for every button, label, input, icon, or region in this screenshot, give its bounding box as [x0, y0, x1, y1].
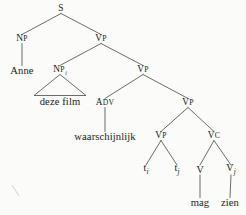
- branch-vp3-vp4: [161, 108, 188, 132]
- branch-vj-zien: [230, 175, 231, 198]
- tree-edges-svg: [0, 0, 246, 215]
- node-np1: NP: [16, 34, 28, 43]
- node-vp4: VP: [155, 131, 167, 140]
- branch-vc-vj: [214, 141, 231, 166]
- syntax-tree-figure: SNPVPAnneNPiVPdeze filmADVVPwaarschijnli…: [0, 0, 246, 215]
- node-vj: Vj: [226, 163, 236, 176]
- branch-vp3-vc: [188, 108, 214, 132]
- node-vc: VC: [208, 131, 221, 140]
- node-mag: mag: [191, 198, 210, 209]
- subscript-j: j: [233, 168, 235, 176]
- node-dezefilm: deze film: [40, 97, 81, 108]
- constituent-triangles: [34, 75, 86, 96]
- node-vp3: VP: [182, 98, 194, 107]
- branch-vp2-adv: [105, 75, 143, 99]
- branch-vp4-ti: [146, 141, 161, 166]
- node-zien: zien: [221, 198, 239, 209]
- node-v1: V: [196, 165, 203, 175]
- branch-s-vp1: [61, 14, 101, 35]
- subscript-i: i: [146, 168, 148, 176]
- node-ti: ti: [143, 163, 148, 176]
- node-s: S: [58, 4, 64, 13]
- branch-vp2-vp3: [143, 75, 188, 99]
- node-waar: waarschijnlijk: [74, 132, 135, 143]
- node-tj: tj: [174, 163, 179, 176]
- branch-vc-v1: [200, 141, 214, 166]
- node-anne: Anne: [10, 66, 33, 77]
- node-vp2: VP: [137, 65, 149, 74]
- node-adv: ADV: [96, 98, 115, 107]
- subscript-i: i: [65, 69, 67, 75]
- branch-vp1-np2: [60, 44, 101, 66]
- branch-vp1-vp2: [101, 44, 143, 66]
- branch-s-np1: [22, 14, 61, 35]
- triangle-np2-dezefilm: [34, 75, 86, 96]
- branch-vp4-tj: [161, 141, 177, 166]
- node-vp1: VP: [95, 34, 107, 43]
- node-np2: NPi: [53, 65, 66, 76]
- stray-pencil-mark: [12, 185, 19, 196]
- subscript-j: j: [177, 168, 179, 176]
